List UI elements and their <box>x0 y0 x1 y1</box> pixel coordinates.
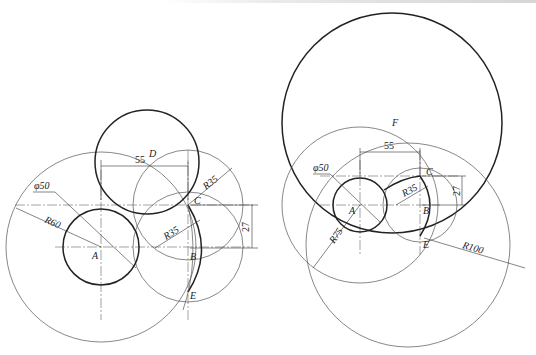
dim-r35-lower-label: R35 <box>160 224 180 242</box>
point-e-label: E <box>422 239 429 250</box>
right-drawing: 55 27 φ50 R35 R75 R100 A B C E F <box>282 13 525 347</box>
dim-phi50-label: φ50 <box>34 180 50 191</box>
point-e-label: E <box>189 290 196 301</box>
point-c-label: C <box>426 166 433 177</box>
dim-27-label: 27 <box>240 222 251 232</box>
drawing-canvas: 55 27 φ50 R60 R35 R35 A B C D E <box>0 0 536 355</box>
point-b-label: B <box>423 205 429 216</box>
dim-55-label: 55 <box>135 154 145 165</box>
dim-r100-label: R100 <box>460 239 484 256</box>
arc-c-e <box>188 205 202 292</box>
point-d-label: D <box>148 148 157 159</box>
dim-55-label: 55 <box>384 140 394 151</box>
left-drawing: 55 27 φ50 R60 R35 R35 A B C D E <box>6 110 258 342</box>
connecting-circle-d <box>95 110 199 214</box>
point-f-label: F <box>391 117 399 128</box>
dim-r35-upper-label: R35 <box>200 173 220 192</box>
point-c-label: C <box>194 195 201 206</box>
point-a-label: A <box>348 205 356 216</box>
point-a-label: A <box>91 250 99 261</box>
point-b-label: B <box>190 251 196 262</box>
dim-27-label: 27 <box>451 186 462 196</box>
dim-phi50-label: φ50 <box>313 162 329 173</box>
dim-r35-label: R35 <box>399 181 419 199</box>
